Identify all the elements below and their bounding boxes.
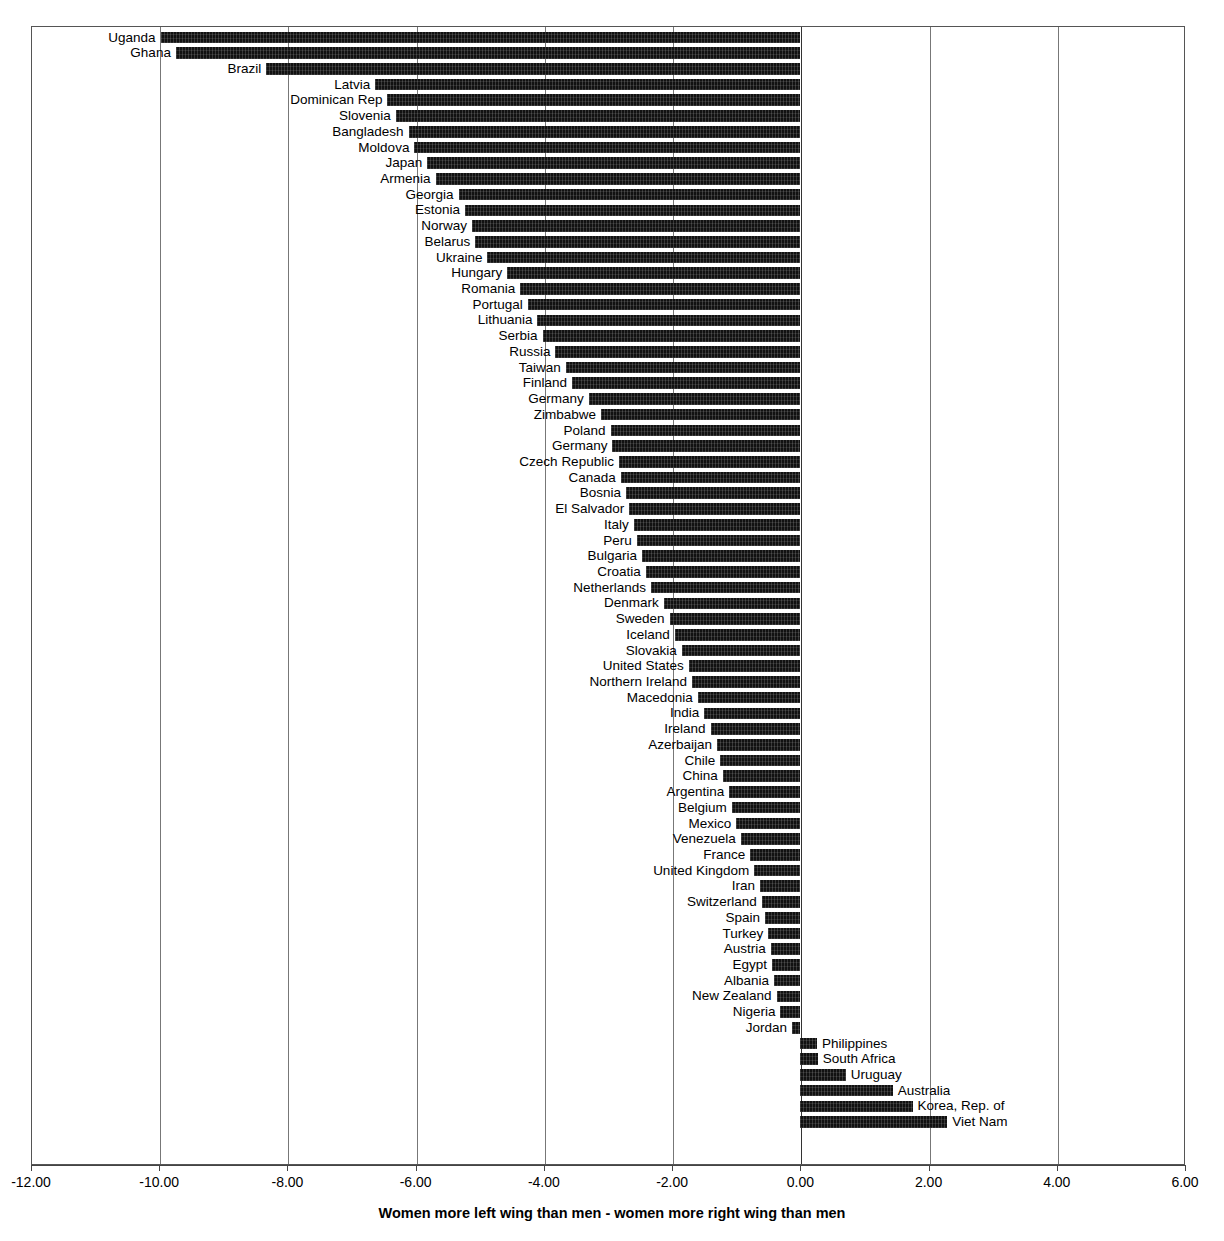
bars-layer: UgandaGhanaBrazilLatviaDominican RepSlov… xyxy=(31,26,1185,1165)
bar[interactable] xyxy=(465,205,800,217)
bar[interactable] xyxy=(642,550,800,562)
bar[interactable] xyxy=(626,487,800,499)
bar-row: Italy xyxy=(31,517,1185,533)
bar[interactable] xyxy=(543,330,801,342)
bar-category-label: Germany xyxy=(552,438,608,454)
bar[interactable] xyxy=(387,94,800,106)
bar[interactable] xyxy=(780,1006,800,1018)
bar[interactable] xyxy=(800,1069,846,1081)
bar[interactable] xyxy=(800,1101,912,1113)
bar[interactable] xyxy=(589,393,801,405)
bar[interactable] xyxy=(375,79,800,91)
bar-category-label: Denmark xyxy=(604,595,659,611)
bar[interactable] xyxy=(459,189,801,201)
bar-category-label: Italy xyxy=(604,517,629,533)
bar[interactable] xyxy=(800,1085,892,1097)
bar-row: Slovenia xyxy=(31,109,1185,125)
bar-row: Australia xyxy=(31,1083,1185,1099)
bar-category-label: Iceland xyxy=(626,627,670,643)
bar-category-label: Latvia xyxy=(334,77,370,93)
bar[interactable] xyxy=(621,472,801,484)
bar[interactable] xyxy=(711,723,801,735)
bar[interactable] xyxy=(729,786,800,798)
bar[interactable] xyxy=(754,865,800,877)
bar[interactable] xyxy=(800,1116,947,1128)
bar[interactable] xyxy=(176,47,800,59)
bar[interactable] xyxy=(762,896,800,908)
bar-row: Czech Republic xyxy=(31,454,1185,470)
bar[interactable] xyxy=(777,991,801,1003)
bar[interactable] xyxy=(414,142,800,154)
bar[interactable] xyxy=(537,315,800,327)
bar[interactable] xyxy=(792,1022,800,1034)
bar-row: Iceland xyxy=(31,627,1185,643)
bar-category-label: Iran xyxy=(732,878,755,894)
bar[interactable] xyxy=(704,708,800,720)
bar[interactable] xyxy=(427,157,800,169)
bar-category-label: Albania xyxy=(724,973,769,989)
bar-category-label: Ghana xyxy=(130,45,171,61)
bar-category-label: Uruguay xyxy=(851,1067,902,1083)
bar[interactable] xyxy=(692,676,800,688)
bar[interactable] xyxy=(698,692,801,704)
bar[interactable] xyxy=(611,425,801,437)
bar[interactable] xyxy=(634,519,801,531)
bar-row: Belgium xyxy=(31,800,1185,816)
bar-row: Lithuania xyxy=(31,313,1185,329)
bar[interactable] xyxy=(161,32,801,44)
bar[interactable] xyxy=(409,126,801,138)
bar-row: Germany xyxy=(31,392,1185,408)
bar[interactable] xyxy=(651,582,800,594)
bar[interactable] xyxy=(475,236,800,248)
bar-category-label: Viet Nam xyxy=(952,1114,1007,1130)
bar[interactable] xyxy=(741,833,801,845)
bar[interactable] xyxy=(528,299,800,311)
bar[interactable] xyxy=(266,63,800,75)
bar-row: Uganda xyxy=(31,30,1185,46)
bar[interactable] xyxy=(723,770,801,782)
bar-category-label: Bangladesh xyxy=(332,124,403,140)
bar[interactable] xyxy=(800,1053,817,1065)
bar[interactable] xyxy=(520,283,800,295)
bar-row: Viet Nam xyxy=(31,1115,1185,1131)
bar[interactable] xyxy=(717,739,800,751)
bar[interactable] xyxy=(637,535,800,547)
bar[interactable] xyxy=(612,440,800,452)
bar[interactable] xyxy=(601,409,800,421)
bar[interactable] xyxy=(800,1038,817,1050)
bar-category-label: Northern Ireland xyxy=(589,674,687,690)
bar-row: Norway xyxy=(31,219,1185,235)
bar-category-label: Armenia xyxy=(380,171,430,187)
bar[interactable] xyxy=(774,975,800,987)
bar[interactable] xyxy=(675,629,801,641)
bar[interactable] xyxy=(682,645,801,657)
bar-row: Latvia xyxy=(31,77,1185,93)
bar[interactable] xyxy=(396,110,801,122)
bar[interactable] xyxy=(732,802,801,814)
bar[interactable] xyxy=(487,252,800,264)
x-axis-title: Women more left wing than men - women mo… xyxy=(0,1205,1224,1221)
bar[interactable] xyxy=(765,912,800,924)
bar[interactable] xyxy=(760,880,800,892)
bar[interactable] xyxy=(436,173,801,185)
bar[interactable] xyxy=(750,849,800,861)
bar[interactable] xyxy=(670,613,801,625)
bar[interactable] xyxy=(619,456,800,468)
bar-row: United Kingdom xyxy=(31,863,1185,879)
bar[interactable] xyxy=(720,755,800,767)
bar[interactable] xyxy=(772,959,800,971)
bar[interactable] xyxy=(768,928,800,940)
bar[interactable] xyxy=(572,377,800,389)
bar[interactable] xyxy=(771,943,800,955)
bar[interactable] xyxy=(507,267,800,279)
bar[interactable] xyxy=(646,566,801,578)
bar[interactable] xyxy=(736,818,800,830)
bar[interactable] xyxy=(629,503,800,515)
bar[interactable] xyxy=(689,660,801,672)
bar-row: Netherlands xyxy=(31,580,1185,596)
bar[interactable] xyxy=(472,220,800,232)
bar-category-label: China xyxy=(682,768,717,784)
bar[interactable] xyxy=(566,362,801,374)
bar[interactable] xyxy=(555,346,800,358)
bar[interactable] xyxy=(664,598,801,610)
